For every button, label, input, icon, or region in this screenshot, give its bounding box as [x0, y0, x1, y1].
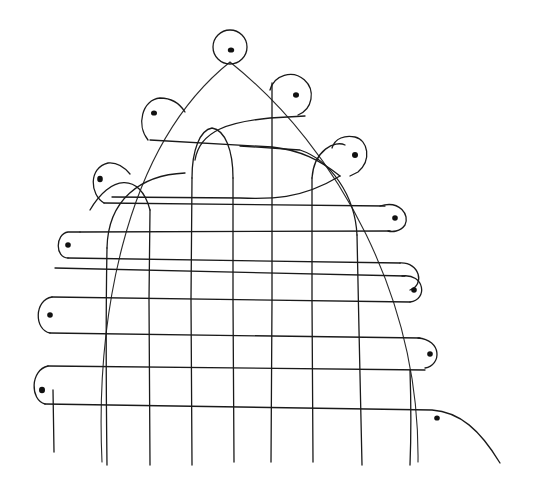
bottom-left-stub	[53, 390, 54, 452]
vertical-strand	[149, 210, 150, 465]
vertical-strand	[233, 178, 234, 462]
horizontal-strand	[55, 268, 405, 276]
arches	[90, 116, 357, 248]
dot	[65, 242, 71, 248]
arch	[195, 116, 305, 160]
horizontal-strand	[112, 176, 340, 198]
dot	[228, 47, 234, 52]
loops	[34, 30, 437, 404]
dot	[392, 215, 398, 221]
horizontal-strand	[45, 404, 500, 463]
horizontal-strand	[104, 203, 385, 206]
arch	[192, 128, 233, 178]
dot	[427, 351, 433, 357]
dot	[39, 387, 45, 393]
dot	[293, 92, 299, 98]
vertical-strand	[312, 178, 313, 462]
lacing-diagram	[0, 0, 535, 481]
arch	[107, 173, 185, 248]
arch	[240, 146, 357, 235]
loop-top	[213, 30, 247, 64]
dot	[47, 312, 53, 318]
vertical-strand	[191, 178, 192, 465]
diagram-canvas	[0, 0, 535, 481]
loop-left-lobe	[34, 366, 48, 404]
dot	[352, 152, 358, 158]
loop-dots	[39, 47, 440, 420]
horizontal-strand	[68, 258, 400, 263]
loop-upper-left	[142, 98, 185, 140]
vertical-strand	[106, 248, 107, 465]
dot	[411, 287, 417, 293]
vertical-strand	[410, 370, 411, 465]
horizontal-strand	[48, 366, 425, 370]
arch	[90, 183, 150, 210]
dot	[151, 110, 157, 115]
vertical-strands	[53, 83, 411, 465]
dot	[97, 176, 103, 182]
vertical-strand	[357, 235, 362, 465]
loop-right	[332, 136, 367, 176]
loop-upper-right	[270, 74, 311, 115]
dot	[434, 415, 440, 420]
